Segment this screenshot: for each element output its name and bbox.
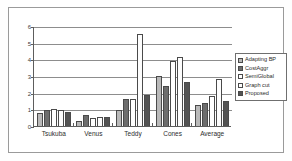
plot-area: 0123456 TsukubaVenusTeddyConesAverage [33, 27, 231, 127]
y-axis-tick [31, 127, 34, 128]
bar [76, 121, 82, 126]
bar [137, 34, 143, 126]
legend-swatch-icon [238, 83, 243, 88]
bar-group [34, 26, 74, 126]
bar [195, 105, 201, 126]
y-axis-tick-label: 2 [28, 91, 31, 97]
bar-group [113, 26, 153, 126]
figure-border: 0123456 TsukubaVenusTeddyConesAverage Ad… [8, 7, 284, 153]
bar [163, 86, 169, 126]
bar-groups [34, 26, 232, 126]
bar [184, 82, 190, 126]
y-axis-tick-label: 1 [28, 107, 31, 113]
bar [156, 76, 162, 126]
bar [65, 112, 71, 126]
bar [202, 103, 208, 126]
bar [51, 109, 57, 126]
bar [209, 96, 215, 126]
legend-item: CostAggr [238, 64, 284, 72]
x-axis-tick-label: Cones [163, 131, 182, 138]
bar [83, 115, 89, 126]
bar-group [153, 26, 193, 126]
legend-item: Adapting BP [238, 56, 284, 64]
legend-item: Proposed [238, 90, 284, 98]
x-axis-tick-label: Average [200, 131, 224, 138]
bar [44, 110, 50, 126]
bar [116, 110, 122, 126]
bar [177, 57, 183, 126]
bar [216, 79, 222, 126]
bar-group [192, 26, 232, 126]
bar [123, 99, 129, 126]
chart-figure: 0123456 TsukubaVenusTeddyConesAverage Ad… [0, 0, 292, 161]
bar [90, 118, 96, 126]
x-axis-tick-label: Teddy [124, 131, 141, 138]
legend-item-label: CostAggr [245, 66, 268, 72]
legend-item-label: Graph cut [245, 83, 270, 89]
legend-item: Graph cut [238, 81, 284, 89]
bar [170, 61, 176, 126]
bar [58, 110, 64, 126]
y-axis-tick-label: 6 [28, 24, 31, 30]
y-axis-tick-label: 3 [28, 74, 31, 80]
legend-item-label: SemiGlobal [245, 74, 274, 80]
bar [104, 117, 110, 127]
x-axis-tick-label: Tsukuba [42, 131, 66, 138]
legend-swatch-icon [238, 74, 243, 79]
chart-legend: Adapting BPCostAggrSemiGlobalGraph cutPr… [235, 53, 287, 101]
y-axis-tick-label: 0 [28, 124, 31, 130]
legend-item: SemiGlobal [238, 73, 284, 81]
bar-group [74, 26, 114, 126]
y-axis-tick-label: 4 [28, 57, 31, 63]
legend-swatch-icon [238, 58, 243, 63]
legend-swatch-icon [238, 66, 243, 71]
legend-swatch-icon [238, 91, 243, 96]
x-axis-tick-label: Venus [84, 131, 102, 138]
bar [37, 113, 43, 126]
legend-item-label: Adapting BP [245, 57, 276, 63]
bar [144, 95, 150, 126]
y-axis-tick-label: 5 [28, 41, 31, 47]
legend-item-label: Proposed [245, 91, 269, 97]
bar [97, 117, 103, 126]
bar [130, 99, 136, 126]
bar [223, 101, 229, 126]
